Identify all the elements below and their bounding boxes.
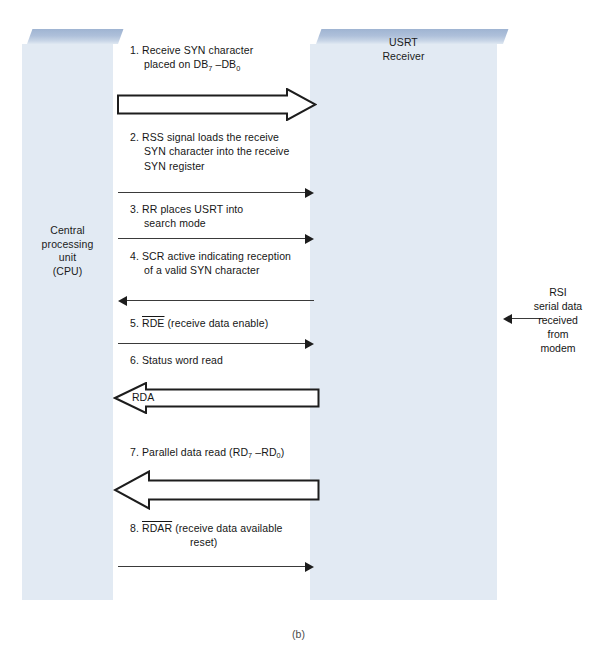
step-2-line-2: SYN character into the receive <box>130 144 289 158</box>
block-usrt-receiver <box>310 29 503 600</box>
step-1-sub-7: 7 <box>208 64 212 73</box>
block-cpu-top-face <box>27 29 123 44</box>
block-arrow-step-7 <box>113 470 320 510</box>
block-cpu <box>22 29 119 600</box>
step-1-number: 1. <box>130 43 139 57</box>
thin-arrow-step-8 <box>118 562 314 572</box>
block-cpu-label-line-2: processing <box>22 238 113 252</box>
thin-arrow-step-4-shaft <box>125 300 314 301</box>
step-3-text: 3. RR places USRT into search mode <box>130 202 243 231</box>
step-4-text: 4. SCR active indicating reception of a … <box>130 249 291 278</box>
step-4-line-2: of a valid SYN character <box>130 263 291 277</box>
thin-arrow-step-5 <box>118 339 314 349</box>
thin-arrow-step-2 <box>118 188 314 198</box>
block-arrow-rda: RDA <box>113 382 320 414</box>
step-7-post: ) <box>281 446 285 458</box>
thin-arrow-step-3-head <box>305 234 314 244</box>
step-4-line-1: SCR active indicating reception <box>142 250 291 262</box>
block-cpu-label-line-4: (CPU) <box>22 265 113 279</box>
step-1-line-2-mid: –DB <box>212 58 236 70</box>
figure-caption: (b) <box>0 628 597 640</box>
block-usrt-label: USRT Receiver <box>310 36 497 63</box>
step-7-number: 7. <box>130 445 139 459</box>
side-note-rsi-line-4: from <box>525 328 591 342</box>
side-note-rsi-line-2: serial data <box>525 300 591 314</box>
step-7-pre: Parallel data read (RD <box>142 446 248 458</box>
step-1-text: 1. Receive SYN character placed on DB7 –… <box>130 43 253 72</box>
step-2-line-3: SYN register <box>130 159 289 173</box>
block-cpu-label-line-3: unit <box>22 251 113 265</box>
thin-arrow-step-4-head <box>118 296 127 306</box>
step-7-mid: –RD <box>252 446 276 458</box>
step-5-text: 5. RDE (receive data enable) <box>130 316 268 330</box>
thin-arrow-step-8-shaft <box>118 566 307 567</box>
step-7-sub-0: 0 <box>277 451 281 460</box>
step-5-number: 5. <box>130 316 139 330</box>
step-2-number: 2. <box>130 130 139 144</box>
step-1-line-1: Receive SYN character <box>142 44 253 56</box>
step-6-text: 6. Status word read <box>130 353 223 367</box>
thin-arrow-rsi-head <box>503 314 512 324</box>
thin-arrow-step-8-head <box>305 562 314 572</box>
step-8-rdar-overlined: RDAR <box>142 522 172 534</box>
block-arrow-step-1 <box>117 88 317 121</box>
thin-arrow-step-3-shaft <box>118 238 307 239</box>
side-note-rsi-line-3: received <box>525 314 591 328</box>
block-arrow-rda-label: RDA <box>132 391 154 403</box>
side-note-rsi: RSI serial data received from modem <box>525 286 591 356</box>
block-cpu-label: Central processing unit (CPU) <box>22 224 113 279</box>
step-5-rest: (receive data enable) <box>164 317 268 329</box>
thin-arrow-step-4 <box>118 296 314 306</box>
thin-arrow-step-3 <box>118 234 314 244</box>
step-2-line-1: RSS signal loads the receive <box>142 131 279 143</box>
thin-arrow-step-5-head <box>305 339 314 349</box>
step-6-line-1: Status word read <box>142 354 223 366</box>
step-1-sub-0: 0 <box>236 64 240 73</box>
thin-arrow-step-5-shaft <box>118 343 307 344</box>
thin-arrow-step-2-head <box>305 188 314 198</box>
thin-arrow-step-2-shaft <box>118 192 307 193</box>
step-8-rest: (receive data available <box>172 522 282 534</box>
step-1-line-2-pre: placed on DB <box>144 58 208 70</box>
side-note-rsi-line-1: RSI <box>525 286 591 300</box>
block-usrt-front-face <box>310 44 497 600</box>
step-2-text: 2. RSS signal loads the receive SYN char… <box>130 130 289 173</box>
block-usrt-label-line-1: USRT <box>310 36 497 50</box>
block-usrt-label-line-2: Receiver <box>310 50 497 64</box>
step-8-line-2: reset) <box>130 535 283 549</box>
step-3-line-1: RR places USRT into <box>142 203 243 215</box>
step-3-line-2: search mode <box>130 216 243 230</box>
step-5-rde-overlined: RDE <box>142 317 164 329</box>
block-cpu-label-line-1: Central <box>22 224 113 238</box>
block-cpu-front-face <box>22 44 113 600</box>
step-8-number: 8. <box>130 521 139 535</box>
step-8-text: 8. RDAR (receive data available reset) <box>130 521 283 550</box>
figure-canvas: Central processing unit (CPU) USRT Recei… <box>0 0 597 660</box>
step-7-text: 7. Parallel data read (RD7 –RD0) <box>130 445 284 459</box>
step-6-number: 6. <box>130 353 139 367</box>
step-4-number: 4. <box>130 249 139 263</box>
step-3-number: 3. <box>130 202 139 216</box>
step-7-sub-7: 7 <box>248 451 252 460</box>
side-note-rsi-line-5: modem <box>525 342 591 356</box>
